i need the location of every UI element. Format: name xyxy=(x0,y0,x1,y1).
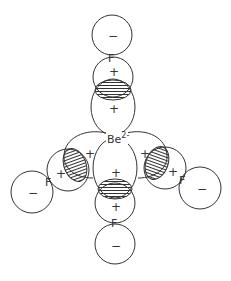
bottom-overlap-region xyxy=(98,179,132,199)
bef4-orbital-diagram: − F + + + + + F − + F − + + F − xyxy=(0,0,231,281)
be-top-sign: + xyxy=(109,102,119,116)
right-f-label: F xyxy=(179,174,185,187)
top-f-outer-sign: − xyxy=(108,29,118,43)
left-f-label: F xyxy=(45,176,51,189)
left-f-inner-sign: + xyxy=(56,167,66,181)
bottom-f-label: F xyxy=(111,217,117,230)
be-bottom-sign: + xyxy=(111,166,121,180)
be-charge: 2- xyxy=(121,131,129,140)
left-f-outer-sign: − xyxy=(28,186,38,200)
right-f-inner-sign: + xyxy=(168,165,178,179)
bottom-f-inner-sign: + xyxy=(111,200,121,214)
right-fluorine: + F − xyxy=(141,143,221,209)
top-f-label: F xyxy=(108,52,114,65)
right-f-outer-sign: − xyxy=(197,182,207,196)
bottom-f-outer-sign: − xyxy=(111,239,121,253)
be-symbol: Be xyxy=(107,133,122,146)
top-overlap-region xyxy=(95,80,131,100)
top-f-inner-sign: + xyxy=(109,65,119,79)
bottom-fluorine: + F − xyxy=(95,179,135,264)
left-fluorine: + F − xyxy=(11,145,91,213)
